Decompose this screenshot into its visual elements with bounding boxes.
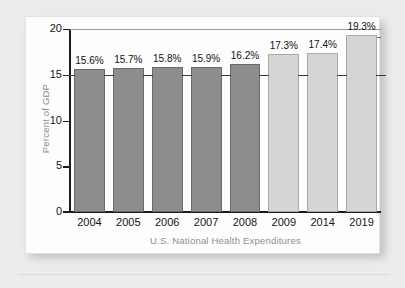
x-axis-tick-2007: 2007 bbox=[187, 216, 226, 228]
gridline-15-segment bbox=[182, 75, 192, 76]
gridline-15-segment bbox=[337, 75, 347, 76]
x-axis-tick-2019: 2019 bbox=[342, 216, 381, 228]
y-axis-tick-10: 10 bbox=[42, 115, 62, 126]
y-axis-tick-labels: 20151050 bbox=[38, 17, 62, 253]
gridline-15-segment bbox=[65, 75, 75, 76]
y-axis-tick-5: 5 bbox=[42, 160, 62, 171]
y-axis-tick-0: 0 bbox=[42, 206, 62, 217]
gridline-15-segment bbox=[143, 75, 153, 76]
chart-card: Percent of GDP 20151050 15.6%15.7%15.8%1… bbox=[25, 16, 380, 254]
x-axis-tick-2009: 2009 bbox=[264, 216, 303, 228]
bar-2014[interactable] bbox=[307, 53, 338, 212]
x-axis-tick-2005: 2005 bbox=[109, 216, 148, 228]
x-axis-tick-2008: 2008 bbox=[226, 216, 265, 228]
y-tick-mark-20 bbox=[63, 29, 70, 30]
bar-2008[interactable] bbox=[230, 64, 261, 212]
bar-2005[interactable] bbox=[113, 68, 144, 212]
bar-2019[interactable] bbox=[346, 35, 377, 212]
page-divider-rule bbox=[18, 274, 390, 275]
y-tick-mark-0 bbox=[63, 212, 70, 213]
bar-group-2008[interactable]: 16.2% bbox=[226, 29, 265, 212]
bar-series: 15.6%15.7%15.8%15.9%16.2%17.3%17.4%19.3% bbox=[70, 29, 381, 212]
y-axis-tick-20: 20 bbox=[42, 23, 62, 34]
bar-value-label-2019: 19.3% bbox=[337, 21, 386, 32]
bar-value-label-2014: 17.4% bbox=[298, 39, 347, 50]
bar-group-2014[interactable]: 17.4% bbox=[303, 29, 342, 212]
bar-group-2009[interactable]: 17.3% bbox=[264, 29, 303, 212]
bar-2007[interactable] bbox=[191, 67, 222, 212]
gridline-15-segment bbox=[221, 75, 231, 76]
bar-group-2019[interactable]: 19.3% bbox=[342, 29, 381, 212]
x-axis-tick-labels: 20042005200620072008200920142019 bbox=[70, 216, 381, 232]
gridline-15-segment bbox=[298, 75, 308, 76]
bar-2009[interactable] bbox=[268, 54, 299, 212]
bar-2006[interactable] bbox=[152, 67, 183, 212]
x-axis-tick-2006: 2006 bbox=[148, 216, 187, 228]
plot-area: Percent of GDP 20151050 15.6%15.7%15.8%1… bbox=[26, 17, 379, 253]
x-axis-title: U.S. National Health Expenditures bbox=[70, 235, 381, 246]
gridline-15-segment bbox=[104, 75, 114, 76]
bar-2004[interactable] bbox=[74, 69, 105, 212]
gridline-15-segment bbox=[376, 75, 386, 76]
x-axis-tick-2004: 2004 bbox=[70, 216, 109, 228]
x-axis-tick-2014: 2014 bbox=[303, 216, 342, 228]
gridline-15-segment bbox=[259, 75, 269, 76]
bar-value-label-2008: 16.2% bbox=[221, 50, 270, 61]
y-tick-mark-10 bbox=[63, 121, 70, 122]
y-tick-mark-5 bbox=[63, 166, 70, 167]
y-axis-tick-15: 15 bbox=[42, 69, 62, 80]
